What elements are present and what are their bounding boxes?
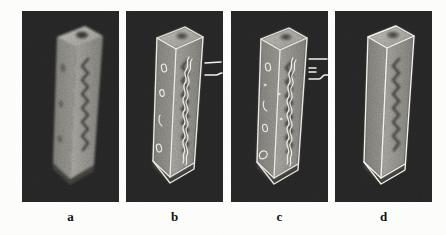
panel-row	[0, 0, 446, 235]
panel-d-image	[335, 11, 432, 202]
panel-caption-b: b	[126, 207, 223, 227]
panel-caption-c: c	[231, 207, 328, 227]
panel-d	[335, 11, 432, 202]
figure-container: a b c d	[0, 0, 446, 235]
panel-a	[22, 11, 119, 202]
panel-a-image	[22, 11, 119, 202]
panel-c-image	[231, 11, 328, 202]
panel-c	[231, 11, 328, 202]
panel-b	[126, 11, 223, 202]
panel-b-image	[126, 11, 223, 202]
panel-caption-d: d	[335, 207, 432, 227]
panel-caption-a: a	[22, 207, 119, 227]
